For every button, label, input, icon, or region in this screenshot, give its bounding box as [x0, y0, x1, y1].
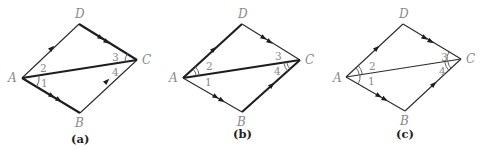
- panel-c: D C A B 1 2 3 4 (c): [332, 7, 475, 141]
- double-arrow-icon: [218, 97, 226, 104]
- parallelogram-diagrams: D C A B 1 2 3 4 (a) D C A B 1 2 3 4: [0, 0, 481, 150]
- vertex-label-c: C: [142, 53, 151, 67]
- angle-arc-1: [358, 75, 360, 84]
- segment-ab: [346, 77, 405, 111]
- angle-arc-4: [284, 63, 289, 72]
- vertex-label-d: D: [398, 7, 409, 21]
- single-arrow-icon: [103, 77, 111, 85]
- angle-arc-2: [356, 68, 359, 75]
- angle-label-1: 1: [368, 75, 375, 87]
- vertex-label-a: A: [168, 71, 178, 85]
- caption-c: (c): [396, 127, 414, 141]
- angle-arc-4: [287, 62, 291, 70]
- vertex-label-d: D: [237, 7, 248, 21]
- vertex-label-c: C: [466, 52, 475, 66]
- caption-a: (a): [71, 132, 89, 146]
- vertex-label-a: A: [332, 71, 342, 85]
- caption-b: (b): [233, 127, 252, 141]
- angle-label-2: 2: [369, 60, 376, 72]
- angle-label-3: 3: [441, 51, 448, 63]
- angle-label-2: 2: [206, 60, 213, 72]
- double-arrow-icon: [212, 93, 220, 100]
- double-arrow-icon: [375, 92, 383, 99]
- single-arrow-icon: [48, 44, 56, 52]
- angle-label-2: 2: [40, 62, 47, 74]
- angle-label-4: 4: [112, 66, 119, 78]
- vertex-label-a: A: [7, 71, 17, 85]
- angle-label-4: 4: [274, 65, 281, 77]
- angle-arc-2: [193, 69, 196, 76]
- angle-label-1: 1: [41, 77, 48, 89]
- angle-label-1: 1: [205, 76, 212, 88]
- vertex-label-b: B: [74, 116, 84, 130]
- double-arrow-icon: [381, 96, 389, 103]
- vertex-label-c: C: [305, 53, 314, 67]
- panel-a: D C A B 1 2 3 4 (a): [7, 7, 151, 146]
- angle-arc-4: [448, 61, 452, 69]
- panel-b: D C A B 1 2 3 4 (b): [168, 7, 314, 141]
- vertex-label-b: B: [399, 114, 409, 128]
- angle-label-3: 3: [112, 51, 119, 63]
- angle-label-4: 4: [439, 65, 446, 77]
- vertex-label-d: D: [74, 7, 85, 21]
- angle-arc-1: [37, 75, 40, 87]
- segment-ab: [183, 78, 242, 112]
- angle-label-3: 3: [275, 50, 282, 62]
